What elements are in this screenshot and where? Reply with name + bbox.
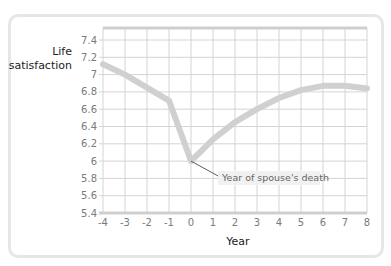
x-tick-label: 7: [342, 217, 348, 228]
x-tick-label: 2: [232, 217, 238, 228]
y-tick-label: 5.8: [81, 173, 97, 184]
x-tick-label: 3: [254, 217, 260, 228]
y-axis-label-line2: satisfaction: [9, 59, 72, 72]
y-tick-label: 7.4: [81, 35, 97, 46]
x-tick-label: -2: [142, 217, 152, 228]
y-tick-label: 5.6: [81, 190, 97, 201]
x-tick-label: 4: [276, 217, 282, 228]
x-axis-ticks: -4-3-2-1012345678: [98, 217, 370, 228]
annotation-label: Year of spouse's death: [221, 172, 329, 183]
x-axis-label: Year: [225, 235, 250, 248]
life-satisfaction-chart: 5.45.65.866.26.46.66.877.27.4 -4-3-2-101…: [0, 0, 391, 266]
y-tick-label: 7: [91, 69, 97, 80]
y-tick-label: 6.2: [81, 138, 97, 149]
x-tick-label: 1: [210, 217, 216, 228]
y-axis-label-line1: Life: [52, 45, 72, 58]
y-tick-label: 6.4: [81, 121, 97, 132]
y-tick-label: 5.4: [81, 208, 97, 219]
x-tick-label: 0: [188, 217, 194, 228]
x-tick-label: 5: [298, 217, 304, 228]
y-axis-ticks: 5.45.65.866.26.46.66.877.27.4: [81, 35, 97, 219]
y-tick-label: 6: [91, 156, 97, 167]
x-tick-label: -3: [120, 217, 130, 228]
annotation-leader: [191, 161, 220, 177]
x-tick-label: -1: [164, 217, 174, 228]
y-tick-label: 6.8: [81, 86, 97, 97]
x-tick-label: 8: [364, 217, 370, 228]
y-tick-label: 6.6: [81, 104, 97, 115]
y-tick-label: 7.2: [81, 52, 97, 63]
x-tick-label: 6: [320, 217, 326, 228]
x-tick-label: -4: [98, 217, 108, 228]
